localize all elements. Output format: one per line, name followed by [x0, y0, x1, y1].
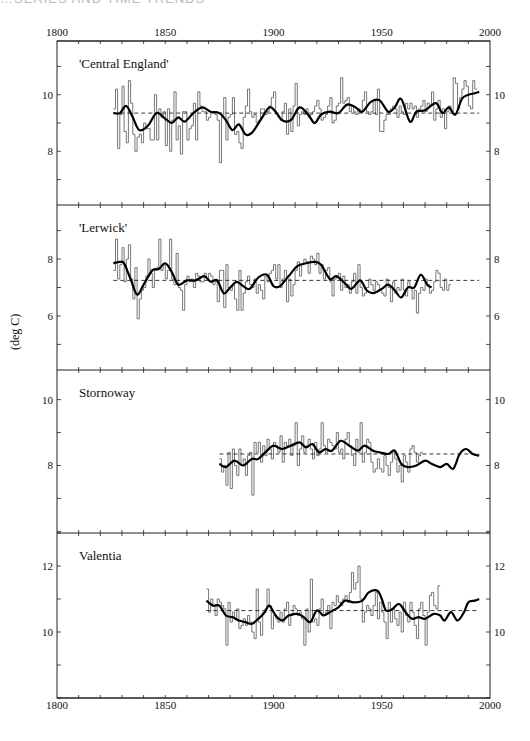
panel-centralengland: 881010'Central England': [42, 56, 506, 180]
station-label: 'Central England': [79, 56, 169, 71]
y-tick-label-right: 10: [494, 89, 506, 101]
y-tick-label-left: 10: [42, 394, 54, 406]
annual-series-line: [206, 566, 440, 645]
chart-frame: [57, 41, 490, 698]
y-tick-label-right: 8: [494, 459, 500, 471]
y-tick-label-right: 12: [494, 560, 505, 572]
smoothed-series-line: [113, 262, 431, 298]
y-tick-label-left: 8: [48, 145, 54, 157]
x-tick-label-bottom: 1900: [263, 699, 286, 711]
y-axis-label: (deg C): [8, 314, 23, 350]
x-tick-label-bottom: 1950: [371, 699, 394, 711]
x-tick-label-bottom: 1800: [46, 699, 69, 711]
y-tick-label-right: 10: [494, 626, 506, 638]
station-label: 'Lerwick': [79, 220, 127, 235]
y-tick-label-right: 6: [494, 310, 500, 322]
y-tick-label-left: 6: [48, 310, 54, 322]
station-label: Stornoway: [79, 385, 136, 400]
y-tick-label-left: 8: [48, 253, 54, 265]
annual-series-line: [113, 239, 451, 319]
x-tick-label-top: 2000: [479, 26, 502, 38]
temperature-chart: 1800180018501850190019001950195020002000…: [0, 0, 530, 741]
x-tick-label-top: 1800: [46, 26, 69, 38]
panel-lerwick: 6688'Lerwick': [48, 220, 501, 344]
station-label: Valentia: [79, 548, 122, 563]
x-tick-label-top: 1950: [371, 26, 394, 38]
panel-valentia: 10101212Valentia: [42, 533, 506, 698]
x-tick-label-bottom: 2000: [479, 699, 502, 711]
chart-panels: 881010'Central England'6688'Lerwick'8810…: [42, 56, 506, 698]
y-tick-label-right: 10: [494, 394, 506, 406]
x-tick-label-top: 1900: [263, 26, 286, 38]
y-tick-label-right: 8: [494, 145, 500, 157]
y-tick-label-right: 8: [494, 253, 500, 265]
x-tick-label-top: 1850: [154, 26, 177, 38]
y-tick-label-left: 8: [48, 459, 54, 471]
y-tick-label-left: 10: [42, 626, 54, 638]
y-tick-label-left: 12: [42, 560, 53, 572]
y-tick-label-left: 10: [42, 89, 54, 101]
x-tick-label-bottom: 1850: [154, 699, 177, 711]
panel-stornoway: 881010Stornoway: [42, 385, 506, 531]
